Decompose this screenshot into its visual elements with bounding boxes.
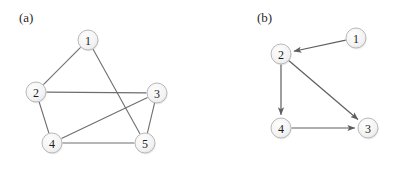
graph-node-3[interactable]: 3 bbox=[147, 83, 168, 104]
edge-layer bbox=[281, 40, 358, 128]
node-label: 5 bbox=[142, 137, 148, 151]
panel-b-directed-graph: (b) 1234 bbox=[201, 0, 403, 177]
figure-canvas: (a) 12345 (b) 1234 bbox=[0, 0, 403, 177]
node-label: 2 bbox=[278, 48, 284, 62]
panel-a-undirected-graph: (a) 12345 bbox=[0, 0, 201, 177]
node-label: 4 bbox=[49, 137, 55, 151]
graph-node-2[interactable]: 2 bbox=[271, 44, 292, 65]
graph-node-4[interactable]: 4 bbox=[42, 133, 63, 154]
edge-2-3 bbox=[46, 92, 146, 93]
graph-node-1[interactable]: 1 bbox=[346, 28, 367, 49]
edge-2-3 bbox=[289, 61, 358, 120]
graph-node-1[interactable]: 1 bbox=[78, 30, 99, 51]
node-label: 1 bbox=[85, 34, 91, 48]
graph-node-5[interactable]: 5 bbox=[135, 133, 156, 154]
panel-a-graph-svg: 12345 bbox=[0, 0, 201, 177]
graph-node-4[interactable]: 4 bbox=[271, 118, 292, 139]
node-label: 3 bbox=[365, 122, 371, 136]
edge-layer bbox=[39, 47, 154, 143]
graph-node-3[interactable]: 3 bbox=[358, 118, 379, 139]
edge-1-2 bbox=[294, 40, 346, 51]
edge-2-4 bbox=[39, 102, 49, 133]
edge-3-5 bbox=[147, 103, 154, 133]
node-label: 1 bbox=[353, 32, 359, 46]
edge-1-5 bbox=[93, 49, 140, 134]
graph-node-2[interactable]: 2 bbox=[26, 82, 47, 103]
node-label: 3 bbox=[154, 87, 160, 101]
panel-b-graph-svg: 1234 bbox=[201, 0, 403, 177]
edge-1-2 bbox=[43, 47, 80, 84]
edge-3-4 bbox=[61, 98, 147, 139]
node-label: 4 bbox=[278, 122, 284, 136]
node-label: 2 bbox=[33, 86, 39, 100]
